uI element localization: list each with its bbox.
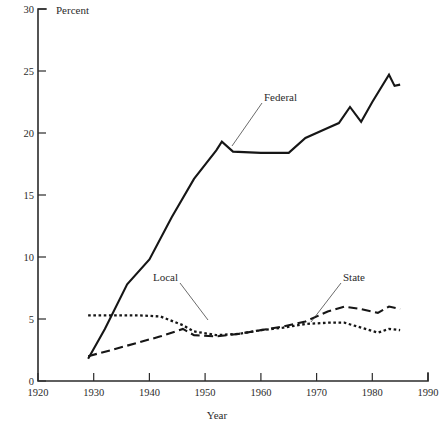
y-tick-label-10: 10 — [24, 252, 35, 263]
chart-background — [0, 0, 448, 430]
y-tick-label-15: 15 — [24, 190, 35, 201]
y-tick-label-30: 30 — [24, 4, 35, 15]
y-tick-label-20: 20 — [24, 128, 35, 139]
series-label-local: Local — [153, 271, 178, 283]
x-axis-title: Year — [207, 409, 228, 421]
x-tick-label-1940: 1940 — [139, 387, 160, 398]
x-tick-label-1920: 1920 — [28, 387, 49, 398]
x-tick-label-1980: 1980 — [362, 387, 383, 398]
government-spending-line-chart: 0 5 10 15 20 25 30 Percent 1920 1930 194… — [0, 0, 448, 430]
x-tick-label-1990: 1990 — [418, 387, 439, 398]
y-tick-label-5: 5 — [29, 314, 34, 325]
series-label-state: State — [343, 271, 365, 283]
x-tick-label-1970: 1970 — [306, 387, 327, 398]
y-axis-title: Percent — [56, 4, 89, 16]
series-label-federal: Federal — [264, 91, 297, 103]
x-tick-label-1960: 1960 — [250, 387, 271, 398]
x-tick-label-1950: 1950 — [195, 387, 216, 398]
y-tick-label-0: 0 — [29, 376, 34, 387]
chart-page: 0 5 10 15 20 25 30 Percent 1920 1930 194… — [0, 0, 448, 430]
y-tick-label-25: 25 — [24, 66, 35, 77]
x-tick-label-1930: 1930 — [83, 387, 104, 398]
